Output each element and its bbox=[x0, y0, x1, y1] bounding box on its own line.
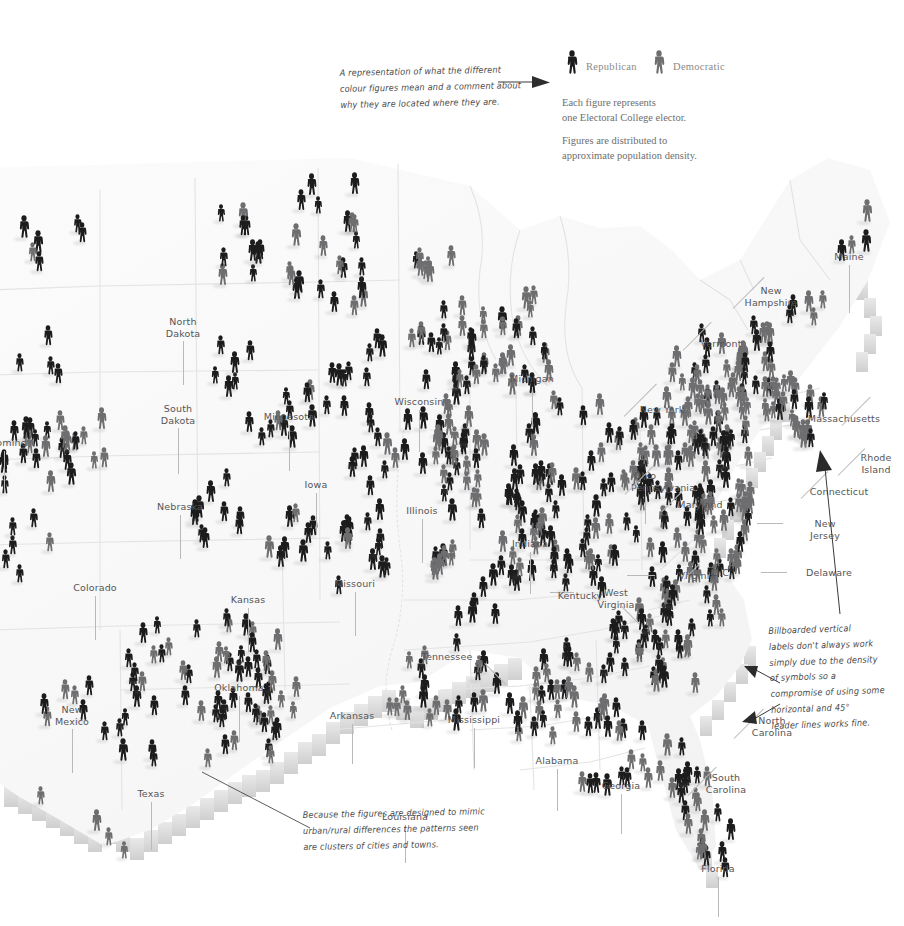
legend-figure-republican bbox=[564, 50, 580, 77]
state-label: Indiana bbox=[492, 538, 568, 550]
leader-line bbox=[718, 877, 719, 917]
leader-line bbox=[627, 575, 655, 576]
state-label: Georgia bbox=[583, 780, 659, 792]
leader-tick bbox=[239, 738, 240, 742]
leader-line bbox=[532, 387, 533, 427]
state-label: Tennessee bbox=[409, 651, 485, 663]
leader-line bbox=[95, 596, 96, 640]
leader-line bbox=[557, 769, 558, 811]
leader-line bbox=[151, 802, 152, 850]
leader-line bbox=[757, 523, 783, 524]
state-label: Wisconsin bbox=[381, 396, 457, 408]
us-map: North DakotaSouth DakotaWyomingMinnesota… bbox=[0, 130, 904, 890]
state-label: Missouri bbox=[317, 578, 393, 590]
leader-line bbox=[183, 341, 184, 385]
annotation-arrow-florida bbox=[740, 700, 782, 726]
leader-tick bbox=[316, 531, 317, 535]
state-label: Illinois bbox=[384, 505, 460, 517]
state-label: North Dakota bbox=[145, 316, 221, 339]
leader-line bbox=[4, 451, 5, 493]
annotation-arrow-south-carolina bbox=[742, 664, 782, 686]
annotation-arrow-delaware bbox=[812, 446, 848, 616]
state-labels: North DakotaSouth DakotaWyomingMinnesota… bbox=[0, 130, 904, 890]
leader-tick bbox=[557, 807, 558, 811]
leader-tick bbox=[405, 859, 406, 863]
state-label: Minnesota bbox=[251, 411, 327, 423]
leader-line bbox=[248, 608, 249, 652]
leader-line bbox=[355, 592, 356, 636]
leader-line bbox=[72, 729, 73, 773]
state-label: Kentucky bbox=[542, 590, 618, 602]
annotation-bottom-left: Because the figures are designed to mimi… bbox=[303, 804, 504, 855]
leader-tick bbox=[178, 470, 179, 474]
leader-tick bbox=[645, 520, 646, 524]
state-label: Ohio bbox=[607, 470, 683, 482]
leader-tick bbox=[151, 846, 152, 850]
leader-line bbox=[180, 515, 181, 559]
leader-line bbox=[849, 265, 850, 313]
state-label: Michigan bbox=[494, 373, 570, 385]
legend-figure-democratic bbox=[651, 50, 667, 77]
leader-line bbox=[316, 493, 317, 535]
leader-line bbox=[289, 425, 290, 471]
leader-line bbox=[419, 410, 420, 452]
state-label: Kansas bbox=[210, 594, 286, 606]
leader-line bbox=[621, 794, 622, 834]
leader-tick bbox=[355, 632, 356, 636]
state-label: Maine bbox=[811, 251, 887, 263]
leader-tick bbox=[248, 648, 249, 652]
leader-tick bbox=[532, 423, 533, 427]
leader-tick bbox=[474, 764, 475, 768]
leader-line bbox=[352, 724, 353, 764]
state-label: Iowa bbox=[278, 479, 354, 491]
leader-tick bbox=[530, 590, 531, 594]
leader-tick bbox=[183, 381, 184, 385]
state-label: Texas bbox=[113, 788, 189, 800]
leader-line bbox=[178, 428, 179, 474]
leader-line bbox=[239, 696, 240, 742]
leader-tick bbox=[419, 448, 420, 452]
leader-tick bbox=[72, 769, 73, 773]
leader-tick bbox=[718, 913, 719, 917]
state-label: Arkansas bbox=[314, 710, 390, 722]
state-label: Oklahoma bbox=[201, 682, 277, 694]
leader-tick bbox=[180, 555, 181, 559]
leader-tick bbox=[621, 830, 622, 834]
leader-line bbox=[530, 552, 531, 594]
leader-tick bbox=[4, 489, 5, 493]
leader-tick bbox=[352, 760, 353, 764]
state-label: Wyoming bbox=[0, 437, 42, 449]
state-label: New Mexico bbox=[34, 704, 110, 727]
state-label: Nebraska bbox=[142, 501, 218, 513]
annotation-right: Billboarded vertical labels don't always… bbox=[768, 620, 890, 734]
leader-line bbox=[422, 519, 423, 563]
state-label: Florida bbox=[680, 863, 756, 875]
leader-tick bbox=[422, 559, 423, 563]
leader-line bbox=[484, 663, 506, 685]
legend-label-republican: Republican bbox=[586, 61, 637, 72]
leader-line bbox=[761, 572, 787, 573]
annotation-arrow-top bbox=[498, 72, 558, 92]
legend-note-electors: Each figure represents one Electoral Col… bbox=[562, 95, 782, 125]
leader-tick bbox=[289, 467, 290, 471]
state-label: Virginia bbox=[659, 570, 735, 582]
leader-line bbox=[474, 728, 475, 768]
legend-label-democratic: Democratic bbox=[673, 61, 725, 72]
state-label: Mississippi bbox=[436, 714, 512, 726]
leader-tick bbox=[95, 636, 96, 640]
state-label: Colorado bbox=[57, 582, 133, 594]
leader-tick bbox=[849, 309, 850, 313]
state-label: South Dakota bbox=[140, 403, 216, 426]
state-label: Alabama bbox=[519, 755, 595, 767]
